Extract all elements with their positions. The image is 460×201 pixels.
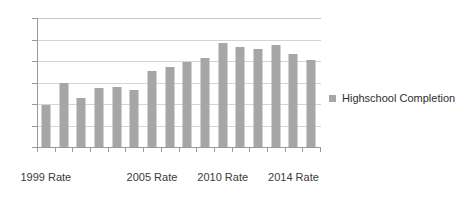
x-axis-tick-label: 2014 Rate xyxy=(268,172,319,183)
bar[interactable] xyxy=(59,83,68,147)
bar[interactable] xyxy=(94,88,103,147)
bar-slot xyxy=(249,18,267,147)
bar-slot xyxy=(72,18,90,147)
x-axis-tick-mark xyxy=(285,148,286,152)
x-axis-tick-mark xyxy=(320,148,321,152)
bar[interactable] xyxy=(112,87,121,147)
bar-chart: 050100150200250300 1999 Rate2005 Rate201… xyxy=(0,0,460,201)
bar-slot xyxy=(179,18,197,147)
x-axis-tick-mark xyxy=(179,148,180,152)
bars-layer xyxy=(37,18,320,147)
x-axis-tick-mark xyxy=(108,148,109,152)
bar-slot xyxy=(143,18,161,147)
bar[interactable] xyxy=(218,43,227,147)
x-axis-tick-label: 2010 Rate xyxy=(197,172,248,183)
chart-legend: Highschool Completion xyxy=(329,93,455,104)
bar-slot xyxy=(37,18,55,147)
bar[interactable] xyxy=(201,58,210,147)
bar-slot xyxy=(108,18,126,147)
bar[interactable] xyxy=(307,60,316,147)
bar[interactable] xyxy=(147,71,156,147)
bar-slot xyxy=(285,18,303,147)
bar-slot xyxy=(232,18,250,147)
bar-slot xyxy=(90,18,108,147)
bar-slot xyxy=(125,18,143,147)
bar[interactable] xyxy=(183,62,192,147)
x-axis-tick-mark xyxy=(214,148,215,152)
bar[interactable] xyxy=(254,49,263,147)
x-axis-tick-mark xyxy=(125,148,126,152)
bar-slot xyxy=(267,18,285,147)
bar-slot xyxy=(302,18,320,147)
bar-slot xyxy=(214,18,232,147)
x-axis-tick-mark xyxy=(143,148,144,152)
legend-item-label: Highschool Completion xyxy=(342,93,455,104)
bar[interactable] xyxy=(41,105,50,147)
x-axis-tick-mark xyxy=(302,148,303,152)
bar[interactable] xyxy=(165,67,174,147)
x-axis-tick-mark xyxy=(37,148,38,152)
x-axis-tick-mark xyxy=(55,148,56,152)
bar-slot xyxy=(55,18,73,147)
x-axis-tick-mark xyxy=(161,148,162,152)
x-axis-tick-mark xyxy=(232,148,233,152)
x-axis-tick-mark xyxy=(72,148,73,152)
x-axis-tick-mark xyxy=(196,148,197,152)
bar-slot xyxy=(161,18,179,147)
bar[interactable] xyxy=(289,54,298,147)
x-axis-tick-label: 1999 Rate xyxy=(20,172,71,183)
x-axis-tick-mark xyxy=(249,148,250,152)
bar-slot xyxy=(196,18,214,147)
bar[interactable] xyxy=(77,98,86,147)
x-axis-tick-label: 2005 Rate xyxy=(127,172,178,183)
legend-square-marker xyxy=(329,95,336,102)
x-axis-tick-mark xyxy=(267,148,268,152)
x-axis-tick-mark xyxy=(90,148,91,152)
bar[interactable] xyxy=(130,90,139,147)
bar[interactable] xyxy=(271,45,280,147)
bar[interactable] xyxy=(236,47,245,147)
plot-wrapper: 050100150200250300 1999 Rate2005 Rate201… xyxy=(0,0,340,201)
